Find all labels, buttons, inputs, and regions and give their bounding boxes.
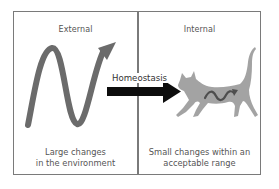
panel-title-external: External	[13, 25, 138, 34]
cat-icon	[176, 47, 258, 117]
caption-external: Large changes in the environment	[13, 147, 138, 169]
homeostasis-label: Homeostasis	[110, 73, 169, 83]
caption-internal-line-2: acceptable range	[138, 158, 261, 169]
large-wave-arrow-icon	[28, 42, 116, 125]
panel-title-internal: Internal	[138, 25, 261, 34]
caption-external-line-2: in the environment	[13, 158, 138, 169]
caption-internal-line-1: Small changes within an	[138, 147, 261, 158]
caption-internal: Small changes within an acceptable range	[138, 147, 261, 169]
caption-external-line-1: Large changes	[13, 147, 138, 158]
homeostasis-arrow-icon	[107, 80, 181, 103]
